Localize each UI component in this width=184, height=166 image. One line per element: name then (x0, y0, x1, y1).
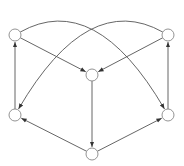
edge-top-right-to-center (98, 38, 162, 72)
edge-top-right-to-bottom-left (19, 21, 163, 109)
node-bottom-left (9, 109, 21, 121)
directed-graph-diagram (0, 0, 184, 166)
edge-bottom-to-bottom-right (97, 118, 161, 151)
node-top-right (162, 29, 174, 41)
node-bottom (86, 148, 98, 160)
edge-bottom-to-bottom-left (21, 118, 86, 151)
node-center (86, 69, 98, 81)
node-top-left (9, 29, 21, 41)
node-bottom-right (162, 109, 174, 121)
edge-top-left-to-center (20, 38, 85, 72)
nodes-group (9, 29, 174, 160)
edges-group (15, 21, 168, 151)
